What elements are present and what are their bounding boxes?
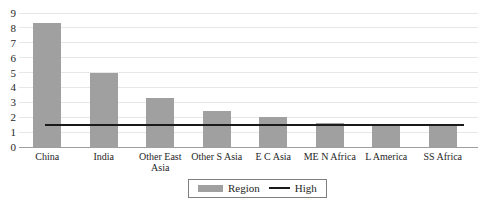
y-axis-tick-label: 2 [0, 111, 16, 123]
bar-l-america [372, 125, 400, 147]
bar-other-east-asia [146, 98, 174, 147]
legend-item-region: Region [198, 182, 260, 194]
gridline [19, 57, 478, 58]
y-axis-tick-label: 6 [0, 52, 16, 64]
bar-other-s-asia [203, 111, 231, 147]
bar-chart: 0123456789ChinaIndiaOther East AsiaOther… [0, 0, 478, 207]
x-axis-tick-label: E C Asia [244, 151, 302, 162]
y-axis-tick-label: 1 [0, 126, 16, 138]
y-axis-tick-label: 4 [0, 81, 16, 93]
high-line-swatch-icon [269, 187, 290, 189]
region-bar-swatch-icon [198, 185, 223, 192]
y-axis-tick-label: 7 [0, 37, 16, 49]
gridline [19, 102, 478, 103]
bar-india [90, 73, 118, 147]
x-axis-tick-label: India [75, 151, 133, 162]
x-axis-line [19, 147, 478, 148]
x-axis-tick-label: ME N Africa [301, 151, 359, 162]
gridline [19, 117, 478, 118]
bar-ss-africa [429, 126, 457, 147]
y-axis-tick-label: 0 [0, 141, 16, 153]
legend-high-label: High [295, 182, 317, 194]
x-axis-tick-label: SS Africa [414, 151, 472, 162]
gridline [19, 72, 478, 73]
bar-e-c-asia [259, 117, 287, 147]
bar-me-n-africa [316, 123, 344, 147]
y-axis-tick-label: 9 [0, 7, 16, 19]
x-axis-tick-label: China [18, 151, 76, 162]
y-axis-tick-label: 3 [0, 96, 16, 108]
y-axis-tick-label: 5 [0, 67, 16, 79]
chart-legend: Region High [188, 179, 327, 198]
bar-china [33, 23, 61, 147]
gridline [19, 13, 478, 14]
x-axis-tick-label: Other S Asia [188, 151, 246, 162]
gridline [19, 132, 478, 133]
x-axis-tick-label: Other East Asia [131, 151, 189, 173]
gridline [19, 27, 478, 28]
high-line-series [45, 124, 464, 126]
gridline [19, 87, 478, 88]
gridline [19, 42, 478, 43]
plot-area: 0123456789ChinaIndiaOther East AsiaOther… [0, 0, 478, 207]
legend-item-high: High [269, 182, 317, 194]
x-axis-tick-label: L America [357, 151, 415, 162]
y-axis-tick-label: 8 [0, 22, 16, 34]
legend-region-label: Region [228, 182, 260, 194]
